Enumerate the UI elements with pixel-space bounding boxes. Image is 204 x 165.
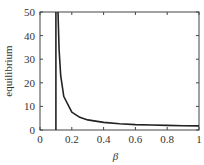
y-axis-label: equilibrium <box>2 45 14 97</box>
x-tick-label: 0.6 <box>129 133 143 145</box>
y-tick-label: 30 <box>24 53 36 65</box>
x-tick-label: 0.4 <box>97 133 111 145</box>
chart-canvas: 00.20.40.60.8101020304050βequilibrium <box>0 0 204 165</box>
x-tick-label: 0 <box>37 133 43 145</box>
y-tick-label: 0 <box>30 124 36 136</box>
x-tick-label: 0.2 <box>65 133 79 145</box>
y-tick-label: 50 <box>24 6 36 18</box>
y-tick-label: 10 <box>24 100 36 112</box>
y-tick-label: 20 <box>24 77 36 89</box>
y-tick-label: 40 <box>24 30 36 42</box>
x-tick-label: 1 <box>196 133 202 145</box>
x-tick-label: 0.8 <box>160 133 174 145</box>
x-axis-label: β <box>112 150 119 162</box>
plot-frame <box>40 12 199 130</box>
equilibrium-curve <box>58 12 199 126</box>
plot-area: 00.20.40.60.8101020304050βequilibrium <box>2 6 202 162</box>
